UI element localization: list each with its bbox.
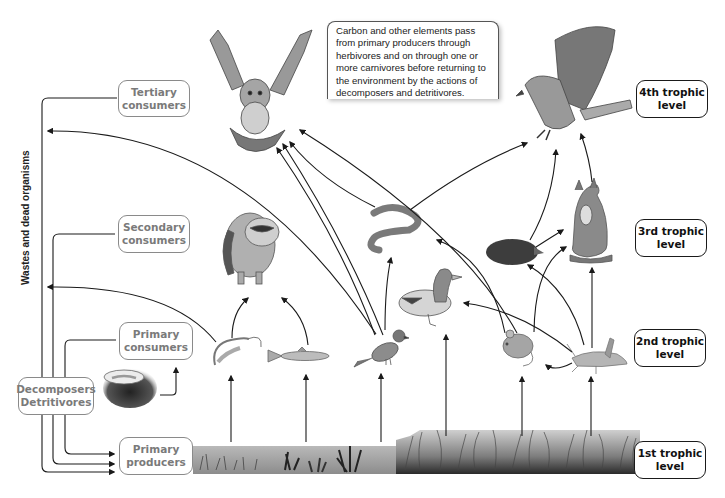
decomposers-box: Decomposers Detritivores: [18, 377, 94, 415]
arrow-grasshopper-mouse: [546, 363, 572, 368]
arrow-snake-hawk: [410, 143, 527, 210]
trophic-level-3-box: 3rd trophic level: [635, 219, 707, 257]
snake-illustration: [371, 207, 418, 250]
secondary-consumers-label: Secondary consumers: [119, 221, 189, 246]
arrow-shrimp-raccoon: [232, 298, 248, 338]
tertiary-consumers-box: Tertiary consumers: [118, 80, 190, 117]
shrimp-illustration: [214, 337, 261, 365]
food-web-diagram: Carbon and other elements pass from prim…: [0, 0, 725, 498]
raccoon-illustration: [223, 213, 279, 284]
fish-illustration: [268, 347, 329, 362]
duck-illustration: [399, 269, 462, 326]
primary-consumers-label: Primary consumers: [120, 328, 192, 353]
arrow-decomposer-primary: [160, 368, 176, 395]
mouse-illustration: [503, 330, 533, 366]
tertiary-consumers-label: Tertiary consumers: [119, 86, 189, 111]
hawk-illustration: [516, 27, 632, 140]
secondary-consumers-box: Secondary consumers: [118, 215, 190, 253]
primary-producers-label: Primary producers: [120, 443, 192, 468]
arrow-mole-hawk: [530, 150, 556, 240]
arrow-sparrow-snake: [385, 258, 391, 330]
arrow-sparrow-owl-2: [283, 144, 383, 335]
waste-return-lines: [42, 98, 117, 472]
earthworm-soil-illustration: [103, 368, 157, 408]
trophic-level-2-box: 2nd trophic level: [634, 329, 706, 367]
producers-ground: [193, 430, 640, 474]
primary-consumers-box: Primary consumers: [119, 322, 193, 360]
trophic-level-1-label: 1st trophic level: [635, 447, 705, 472]
decomposers-label: Decomposers Detritivores: [16, 383, 96, 408]
arrow-fox-hawk: [581, 134, 592, 182]
trophic-level-4-box: 4th trophic level: [636, 80, 708, 118]
owl-illustration: [210, 30, 312, 152]
arrow-mouse-fox: [534, 247, 566, 332]
trophic-level-3-label: 3rd trophic level: [636, 225, 706, 250]
mole-illustration: [486, 239, 544, 265]
trophic-level-2-label: 2nd trophic level: [635, 335, 705, 360]
trophic-level-4-label: 4th trophic level: [637, 86, 707, 111]
fox-illustration: [570, 178, 612, 263]
primary-producers-box: Primary producers: [119, 437, 193, 475]
grasshopper-illustration: [567, 338, 627, 374]
explanation-note: Carbon and other elements pass from prim…: [327, 21, 499, 99]
arrow-to-wastes-upper: [48, 131, 376, 334]
arrow-mole-fox: [536, 230, 563, 247]
trophic-level-1-box: 1st trophic level: [634, 441, 706, 479]
sparrow-illustration: [354, 330, 409, 367]
wastes-label: Wastes and dead organisms: [20, 150, 31, 285]
arrow-fish-raccoon: [282, 298, 308, 345]
